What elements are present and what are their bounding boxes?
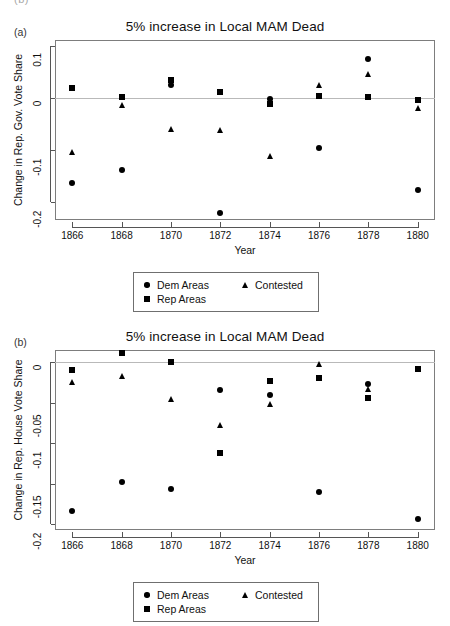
y-axis-line bbox=[50, 362, 51, 524]
legend-item-dem-areas[interactable]: Dem Areas bbox=[143, 279, 241, 291]
legend-row-2: Rep Areas bbox=[143, 292, 309, 306]
x-axis-tick-label: 1872 bbox=[209, 230, 231, 241]
x-axis-tick-label: 1876 bbox=[308, 540, 330, 551]
y-axis-tick bbox=[51, 484, 55, 485]
x-axis-tick bbox=[220, 532, 221, 538]
chart-title-a: 5% increase in Local MAM Dead bbox=[0, 19, 450, 34]
legend-row-1: Dem Areas Contested bbox=[143, 588, 309, 602]
circle-marker-icon bbox=[143, 282, 151, 288]
y-axis-line bbox=[50, 46, 51, 202]
legend-label-rep-areas: Rep Areas bbox=[157, 293, 206, 305]
x-axis-line bbox=[72, 537, 417, 538]
x-axis-tick-label: 1876 bbox=[308, 230, 330, 241]
y-axis-tick bbox=[51, 46, 55, 47]
x-axis-tick bbox=[418, 222, 419, 228]
x-axis-tick bbox=[72, 532, 73, 538]
x-axis-tick bbox=[368, 532, 369, 538]
x-axis-title-b: Year bbox=[55, 554, 435, 566]
x-axis-tick bbox=[368, 222, 369, 228]
circle-marker-icon bbox=[143, 592, 151, 598]
x-axis-tick-label: 1866 bbox=[61, 540, 83, 551]
x-axis-tick-label: 1874 bbox=[259, 540, 281, 551]
y-axis-tick-label: 0 bbox=[33, 101, 43, 107]
y-axis-tick-label: 0 bbox=[33, 365, 43, 371]
zero-reference-line bbox=[55, 98, 435, 99]
legend-item-dem-areas[interactable]: Dem Areas bbox=[143, 589, 241, 601]
legend-label-dem-areas: Dem Areas bbox=[157, 279, 209, 291]
y-axis-tick-label: -0.2 bbox=[33, 210, 43, 227]
legend-label-dem-areas: Dem Areas bbox=[157, 589, 209, 601]
x-axis-tick-label: 1868 bbox=[110, 540, 132, 551]
x-axis-tick-label: 1880 bbox=[407, 230, 429, 241]
legend-item-rep-areas[interactable]: Rep Areas bbox=[143, 603, 241, 615]
triangle-marker-icon bbox=[241, 282, 249, 288]
y-axis-tick-label: -0.05 bbox=[33, 414, 43, 437]
y-axis-title-a: Change in Rep. Gov. Vote Share bbox=[13, 54, 24, 206]
x-axis-tick-label: 1872 bbox=[209, 540, 231, 551]
x-axis-tick-label: 1868 bbox=[110, 230, 132, 241]
plot-border-b bbox=[55, 350, 435, 530]
chart-panel-b: (b) 5% increase in Local MAM Dead Change… bbox=[0, 320, 450, 620]
zero-reference-line bbox=[55, 362, 435, 363]
x-axis-tick-label: 1866 bbox=[61, 230, 83, 241]
y-axis-tick-label: -0.1 bbox=[33, 159, 43, 176]
figure-page: (b) (a) 5% increase in Local MAM Dead Ch… bbox=[0, 0, 450, 626]
x-axis-tick bbox=[319, 532, 320, 538]
y-axis-tick bbox=[51, 98, 55, 99]
y-axis-tick bbox=[51, 202, 55, 203]
legend-label-contested: Contested bbox=[255, 279, 303, 291]
x-axis-tick-label: 1880 bbox=[407, 540, 429, 551]
y-axis-title-b: Change in Rep. House Vote Share bbox=[13, 359, 24, 520]
legend-item-contested[interactable]: Contested bbox=[241, 589, 303, 601]
triangle-marker-icon bbox=[241, 592, 249, 598]
x-axis-tick-label: 1870 bbox=[160, 540, 182, 551]
cutoff-header-text: (b) bbox=[14, 0, 29, 5]
x-axis-tick bbox=[72, 222, 73, 228]
x-axis-tick bbox=[270, 532, 271, 538]
y-axis-tick-label: -0.15 bbox=[33, 495, 43, 518]
legend-row-1: Dem Areas Contested bbox=[143, 278, 309, 292]
chart-title-b: 5% increase in Local MAM Dead bbox=[0, 329, 450, 344]
y-axis-tick bbox=[51, 443, 55, 444]
x-axis-tick bbox=[171, 222, 172, 228]
y-axis-tick bbox=[51, 150, 55, 151]
legend-label-contested: Contested bbox=[255, 589, 303, 601]
y-axis-tick bbox=[51, 524, 55, 525]
legend-row-2: Rep Areas bbox=[143, 602, 309, 616]
y-axis-tick-label: -0.2 bbox=[33, 533, 43, 550]
plot-area-b: Change in Rep. House Vote Share Year 0-0… bbox=[55, 350, 435, 530]
y-axis-tick-label: 0.1 bbox=[33, 53, 43, 67]
x-axis-line bbox=[72, 227, 417, 228]
legend-item-rep-areas[interactable]: Rep Areas bbox=[143, 293, 241, 305]
x-axis-tick bbox=[171, 532, 172, 538]
legend-b: Dem Areas Contested Rep Areas bbox=[133, 582, 319, 622]
square-marker-icon bbox=[143, 296, 151, 302]
y-axis-tick bbox=[51, 362, 55, 363]
legend-a: Dem Areas Contested Rep Areas bbox=[133, 272, 319, 312]
x-axis-tick bbox=[122, 222, 123, 228]
x-axis-tick bbox=[418, 532, 419, 538]
x-axis-tick bbox=[270, 222, 271, 228]
x-axis-tick-label: 1870 bbox=[160, 230, 182, 241]
chart-panel-a: (a) 5% increase in Local MAM Dead Change… bbox=[0, 10, 450, 313]
y-axis-tick bbox=[51, 403, 55, 404]
plot-border-a bbox=[55, 40, 435, 220]
x-axis-tick bbox=[220, 222, 221, 228]
x-axis-tick bbox=[122, 532, 123, 538]
plot-area-a: Change in Rep. Gov. Vote Share Year 0.10… bbox=[55, 40, 435, 220]
x-axis-tick-label: 1878 bbox=[357, 230, 379, 241]
legend-label-rep-areas: Rep Areas bbox=[157, 603, 206, 615]
x-axis-tick bbox=[319, 222, 320, 228]
y-axis-tick-label: -0.1 bbox=[33, 452, 43, 469]
square-marker-icon bbox=[143, 606, 151, 612]
x-axis-tick-label: 1874 bbox=[259, 230, 281, 241]
x-axis-tick-label: 1878 bbox=[357, 540, 379, 551]
x-axis-title-a: Year bbox=[55, 244, 435, 256]
legend-item-contested[interactable]: Contested bbox=[241, 279, 303, 291]
